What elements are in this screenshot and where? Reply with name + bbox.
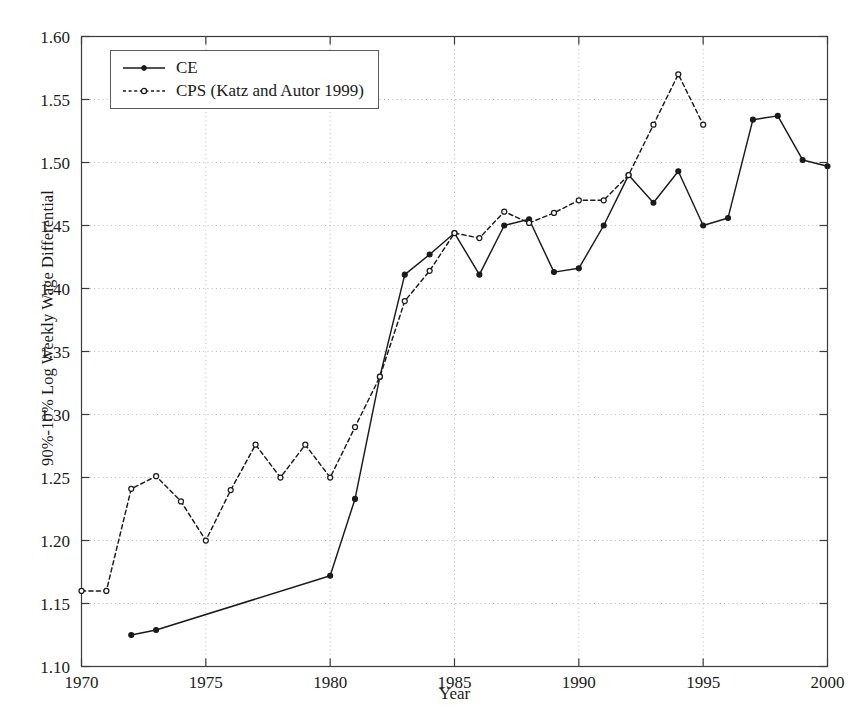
data-point-marker [551,210,556,215]
data-point-marker [427,268,432,273]
data-point-marker [353,496,358,501]
legend-label-cps: CPS (Katz and Autor 1999) [176,81,364,101]
data-point-marker [452,231,457,236]
data-point-marker [676,169,681,174]
data-point-marker [303,442,308,447]
data-point-marker [601,223,606,228]
figure-container: 90%-10% Log Weekly Wage Differential Yea… [0,0,858,709]
legend-item-ce: CE [121,56,364,79]
data-point-marker [726,215,731,220]
data-point-marker [551,270,556,275]
data-point-marker [651,200,656,205]
gridlines [82,37,828,667]
data-point-marker [228,488,233,493]
data-point-marker [576,266,581,271]
data-point-marker [278,475,283,480]
data-point-marker [353,425,358,430]
data-point-marker [377,374,382,379]
data-point-marker [427,252,432,257]
data-point-marker [502,209,507,214]
data-point-marker [477,236,482,241]
data-point-marker [750,117,755,122]
data-point-marker [402,299,407,304]
data-point-marker [676,72,681,77]
data-point-marker [203,538,208,543]
data-point-marker [576,198,581,203]
data-point-marker [104,588,109,593]
data-point-marker [527,220,532,225]
legend-item-cps: CPS (Katz and Autor 1999) [121,79,364,102]
legend-swatch-dashed-line [121,84,167,98]
data-point-marker [328,475,333,480]
data-point-marker [651,122,656,127]
data-point-marker [129,633,134,638]
data-point-marker [129,486,134,491]
data-point-marker [601,198,606,203]
data-point-marker [502,223,507,228]
data-point-marker [79,588,84,593]
data-point-marker [154,627,159,632]
data-series-layer [79,72,830,638]
data-point-marker [701,122,706,127]
data-point-marker [328,573,333,578]
data-point-marker [402,272,407,277]
data-point-marker [825,164,830,169]
chart-legend: CE CPS (Katz and Autor 1999) [110,50,379,109]
series-line-1 [131,116,827,635]
data-point-marker [626,173,631,178]
series-line-2 [82,74,704,591]
legend-label-ce: CE [176,58,198,78]
data-point-marker [477,272,482,277]
data-point-marker [178,499,183,504]
data-point-marker [154,474,159,479]
data-point-marker [775,113,780,118]
data-point-marker [800,157,805,162]
data-point-marker [701,223,706,228]
data-point-marker [253,442,258,447]
legend-swatch-solid-line [121,61,167,75]
